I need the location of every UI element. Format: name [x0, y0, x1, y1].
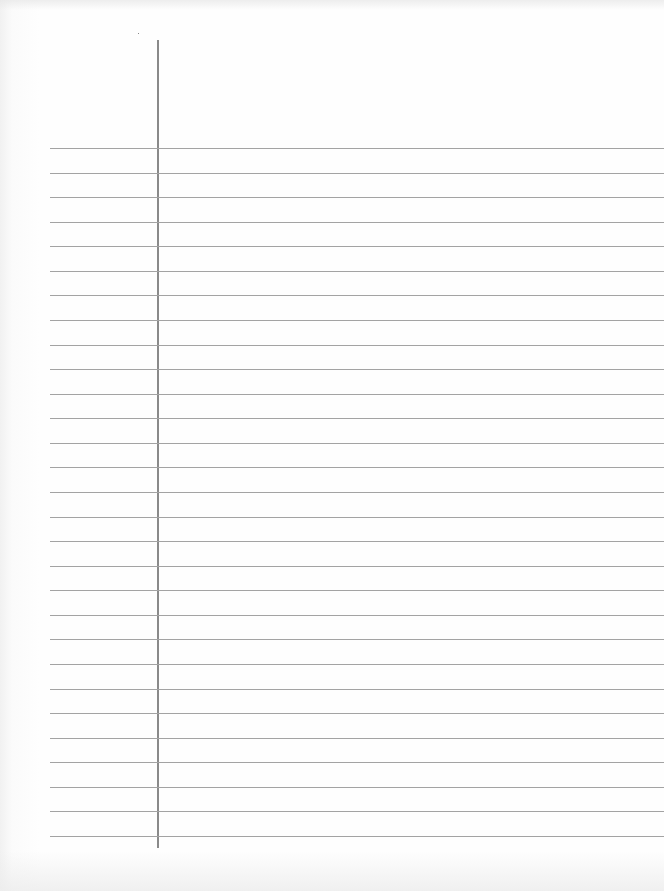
- ruled-line: [50, 762, 664, 763]
- ruled-line: [50, 148, 664, 149]
- ruled-line: [50, 345, 664, 346]
- lined-paper-page: [0, 0, 664, 891]
- ruled-line: [50, 639, 664, 640]
- ruled-line: [50, 492, 664, 493]
- ruled-line: [50, 443, 664, 444]
- ruled-line: [50, 271, 664, 272]
- ruled-line: [50, 295, 664, 296]
- ruled-line: [50, 517, 664, 518]
- ruled-line: [50, 615, 664, 616]
- ruled-line: [50, 713, 664, 714]
- ruled-line: [50, 173, 664, 174]
- ruled-line: [50, 811, 664, 812]
- ruled-line: [50, 738, 664, 739]
- ruled-line: [50, 689, 664, 690]
- ruled-line: [50, 246, 664, 247]
- ruled-line: [50, 836, 664, 837]
- ruled-line: [50, 394, 664, 395]
- ruled-line: [50, 197, 664, 198]
- ruled-line: [50, 467, 664, 468]
- paper-speck: [138, 33, 139, 34]
- ruled-line: [50, 787, 664, 788]
- ruled-line: [50, 369, 664, 370]
- margin-line: [157, 40, 159, 848]
- ruled-line: [50, 418, 664, 419]
- ruled-line: [50, 320, 664, 321]
- ruled-line: [50, 664, 664, 665]
- ruled-line: [50, 590, 664, 591]
- ruled-line: [50, 541, 664, 542]
- page-top-shade: [0, 0, 664, 10]
- page-bottom-shade: [0, 851, 664, 891]
- ruled-line: [50, 222, 664, 223]
- ruled-line: [50, 566, 664, 567]
